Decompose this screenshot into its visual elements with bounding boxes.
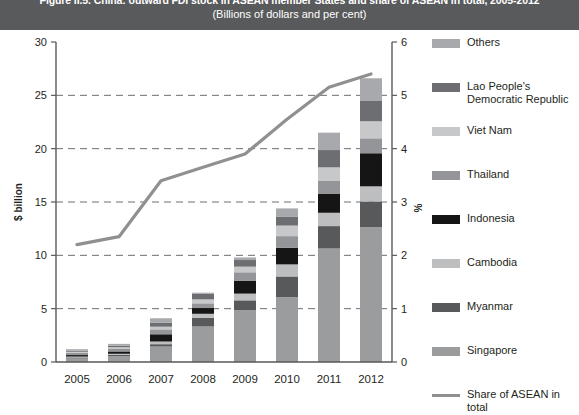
legend-color-swatch [432,259,460,268]
bar-segment [108,351,130,353]
bar-segment [192,308,214,314]
x-axis-tick: 2008 [190,373,216,385]
bar-segment [108,348,130,351]
bar-segment [234,294,256,301]
bar-segment [360,121,382,138]
bar-segment [192,303,214,308]
legend-item[interactable]: Others [432,36,579,80]
x-axis-tick: 2011 [317,373,342,385]
tick-label-group: 3025201510506543210200520062007200820092… [35,36,407,385]
legend-item[interactable]: Cambodia [432,256,579,300]
bar-group [66,78,382,362]
legend-item[interactable]: Lao People's Democratic Republic [432,80,579,124]
legend-color-swatch [432,171,460,180]
bar-segment [276,236,298,248]
bar-segment [360,101,382,121]
x-axis-tick: 2010 [274,373,300,385]
x-axis-tick: 2006 [106,373,132,385]
figure-title: Figure II.5. China: outward FDI stock in… [0,0,579,7]
bar-segment [66,355,88,356]
bar-segment [234,260,256,267]
bar-segment [276,297,298,362]
x-axis-tick: 2007 [148,373,174,385]
left-axis-tick: 20 [35,143,47,155]
bar-segment [192,293,214,294]
legend-item-label: Singapore [467,344,517,357]
legend-color-swatch [432,83,460,92]
bar-segment [318,249,340,362]
bar-segment [276,264,298,276]
bar-segment [150,347,172,362]
bar-segment [108,355,130,356]
bar-segment [360,138,382,153]
x-axis-tick: 2005 [64,373,90,385]
bar-segment [318,133,340,150]
bar-segment [66,352,88,353]
right-axis-tick: 2 [401,249,407,261]
bar-segment [318,213,340,226]
figure-title-band: Figure II.5. China: outward FDI stock in… [0,0,579,30]
bar-segment [276,276,298,297]
left-axis-label: $ billion [13,183,24,221]
bar-segment [192,299,214,303]
bar-segment [318,150,340,167]
left-axis-tick: 30 [35,36,47,48]
bar-segment [360,201,382,227]
bar-segment [108,356,130,362]
bar-segment [276,208,298,216]
bar-segment [234,300,256,310]
left-axis-tick: 5 [41,303,47,315]
right-axis-tick: 0 [401,356,407,368]
bar-segment [234,267,256,273]
bar-segment [234,281,256,294]
bar-segment [66,357,88,358]
legend-item[interactable]: Singapore [432,344,579,388]
bar-segment [318,194,340,213]
bar-segment [108,347,130,348]
legend-color-swatch [432,303,460,312]
bar-segment [276,226,298,237]
bar-segment [66,351,88,352]
bar-segment [150,327,172,330]
bar-segment [108,346,130,347]
right-axis-tick: 1 [401,303,407,315]
bar-segment [66,357,88,358]
bar-segment [234,272,256,280]
legend-color-swatch [432,127,460,136]
legend-item[interactable]: Viet Nam [432,124,579,168]
bar-segment [276,248,298,265]
bar-segment [234,310,256,362]
legend-item[interactable]: Indonesia [432,212,579,256]
bar-segment [150,323,172,327]
bar-segment [360,153,382,186]
legend-item-label: Indonesia [467,212,515,225]
bar-segment [318,226,340,248]
right-axis-tick: 3 [401,196,407,208]
right-axis-tick: 6 [401,36,407,48]
x-axis-tick: 2012 [358,373,384,385]
legend-item-label: Lao People's Democratic Republic [467,80,579,106]
legend-item-label: Others [467,36,500,49]
legend-color-swatch [432,347,460,356]
bar-segment [108,344,130,346]
bar-segment [360,227,382,362]
right-axis-tick: 4 [401,143,407,155]
legend-item-label: Viet Nam [467,124,512,137]
bar-segment [150,344,172,346]
legend-item[interactable]: Myanmar [432,300,579,344]
gridlines [56,95,392,308]
right-axis-tick: 5 [401,89,407,101]
bar-segment [192,318,214,327]
legend-item[interactable]: Thailand [432,168,579,212]
bar-segment [150,342,172,345]
bar-segment [150,334,172,341]
bar-segment [66,353,88,355]
legend-item[interactable]: Share of ASEAN in total [432,388,579,415]
bar-segment [276,217,298,226]
bar-segment [360,186,382,201]
bar-segment [192,326,214,362]
legend-item-label: Thailand [467,168,509,181]
bar-segment [108,354,130,355]
legend-item-label: Cambodia [467,256,517,269]
